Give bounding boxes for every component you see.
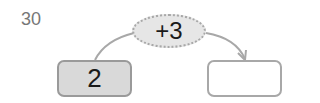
answer-box[interactable] <box>207 60 282 97</box>
operation-label: +3 <box>155 17 182 45</box>
start-value: 2 <box>87 63 101 94</box>
start-value-box: 2 <box>57 60 132 97</box>
operation-oval: +3 <box>132 14 206 48</box>
